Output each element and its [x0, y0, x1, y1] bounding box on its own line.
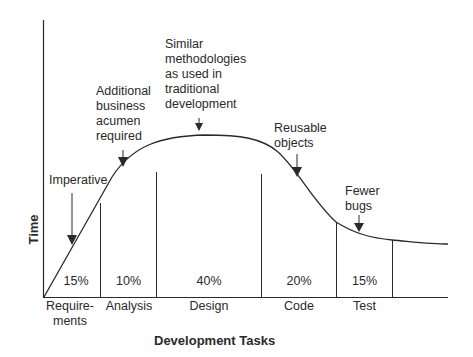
- percent-analysis: 10%: [101, 274, 156, 288]
- task-label-code: Code: [262, 299, 336, 314]
- annotation-line: acumen: [96, 114, 151, 129]
- annotation-line: objects: [274, 136, 327, 151]
- annotation-line: business: [96, 99, 151, 114]
- annotation-line: traditional: [165, 82, 246, 97]
- task-label-requirements: Require- ments: [40, 299, 100, 329]
- annotation-fewer-bugs: Fewer bugs: [345, 184, 380, 214]
- percent-design: 40%: [157, 274, 261, 288]
- annotation-line: Fewer: [345, 184, 380, 199]
- percent-test: 15%: [337, 274, 392, 288]
- time-curve: [44, 135, 448, 297]
- annotation-line: development: [165, 97, 246, 112]
- annotation-line: Reusable: [274, 121, 327, 136]
- annotation-line: as used in: [165, 67, 246, 82]
- task-label-line: ments: [40, 314, 100, 329]
- arrow-business-acumen: [118, 150, 128, 167]
- y-axis-title: Time: [26, 214, 41, 244]
- annotation-imperative: Imperative: [49, 173, 107, 188]
- task-label-line: Require-: [40, 299, 100, 314]
- task-label-test: Test: [337, 299, 392, 314]
- annotation-similar-methodologies: Similar methodologies as used in traditi…: [165, 37, 246, 112]
- arrow-imperative: [67, 193, 77, 245]
- annotation-line: bugs: [345, 199, 380, 214]
- percent-requirements: 15%: [52, 274, 100, 288]
- annotation-business-acumen: Additional business acumen required: [96, 84, 151, 144]
- annotation-line: Additional: [96, 84, 151, 99]
- annotation-reusable-objects: Reusable objects: [274, 121, 327, 151]
- arrow-similar-methodologies: [195, 118, 203, 131]
- arrow-reusable-objects: [292, 154, 302, 177]
- percent-code: 20%: [262, 274, 336, 288]
- annotation-line: required: [96, 129, 151, 144]
- x-axis-title: Development Tasks: [154, 333, 275, 348]
- annotation-line: Imperative: [49, 173, 107, 187]
- task-label-analysis: Analysis: [100, 299, 158, 314]
- annotation-line: Similar: [165, 37, 246, 52]
- annotation-line: methodologies: [165, 52, 246, 67]
- arrow-fewer-bugs: [354, 215, 364, 232]
- task-label-design: Design: [157, 299, 261, 314]
